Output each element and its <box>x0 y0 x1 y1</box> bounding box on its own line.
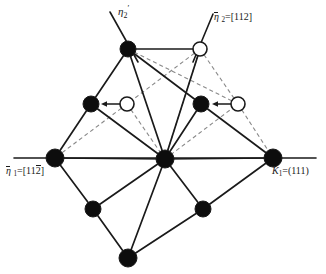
center-filled-node <box>156 150 174 168</box>
top-right-open-node <box>193 42 207 56</box>
solid-edge-6 <box>165 104 201 159</box>
lattice-nodes-group <box>46 41 282 267</box>
solid-edge-8 <box>55 158 165 159</box>
shear-arrow-right-head <box>212 101 218 107</box>
solid-edge-13 <box>128 159 165 258</box>
solid-edge-1 <box>91 49 128 104</box>
mid-right-open-node <box>231 97 245 111</box>
solid-edge-10 <box>55 158 93 209</box>
solid-edge-9 <box>165 158 273 159</box>
label-eta1: η 1=[112] <box>6 166 44 178</box>
solid-edge-4 <box>55 104 91 158</box>
mid-left-open-node <box>120 97 134 111</box>
lattice-diagram-svg <box>0 0 326 274</box>
solid-edge-3 <box>128 49 201 104</box>
top-left-filled-node <box>120 41 136 57</box>
mid-right-filled-node <box>193 96 209 112</box>
solid-edge-15 <box>128 209 203 258</box>
label-k1: K1=(111) <box>272 166 309 178</box>
dashed-edge-6 <box>238 104 273 158</box>
left-filled-node <box>46 149 64 167</box>
axis-lines-group <box>14 12 316 158</box>
mid-left-filled-node <box>83 96 99 112</box>
figure-canvas: η2′ η 2=[112] η 1=[112] K1=(111) <box>0 0 326 274</box>
bottom-filled-node <box>119 249 137 267</box>
solid-edge-7 <box>201 104 273 158</box>
label-eta2: η 2=[112] <box>214 12 252 24</box>
label-eta2-prime: η2′ <box>118 4 129 20</box>
solid-edge-16 <box>203 158 273 209</box>
solid-edge-12 <box>93 159 165 209</box>
dashed-edge-5 <box>200 49 238 104</box>
solid-edge-5 <box>91 104 165 159</box>
bottom-right-filled-node <box>195 201 211 217</box>
dashed-edge-0 <box>127 104 165 159</box>
bottom-left-filled-node <box>85 201 101 217</box>
shear-arrow-left-head <box>101 101 107 107</box>
